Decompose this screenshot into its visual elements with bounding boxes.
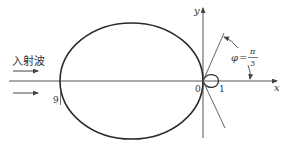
angle-label: φ = π 3 xyxy=(231,47,258,68)
angle-denominator: 3 xyxy=(250,59,255,68)
angle-arc-upper xyxy=(224,37,238,48)
origin-label: 0 xyxy=(195,84,201,94)
x-axis-label: x xyxy=(274,82,280,93)
loop-point-label: 1 xyxy=(219,84,225,94)
scattering-diagram: 入射波 9 0 1 x y φ = π 3 xyxy=(0,0,287,145)
y-axis-label: y xyxy=(193,5,200,16)
tangent-line-upper xyxy=(203,33,224,81)
angle-symbol: φ xyxy=(231,52,238,63)
incident-wave-label: 入射波 xyxy=(12,54,45,68)
left-point-label: 9 xyxy=(53,95,59,105)
angle-equals: = xyxy=(239,52,247,63)
angle-numerator: π xyxy=(249,47,256,56)
